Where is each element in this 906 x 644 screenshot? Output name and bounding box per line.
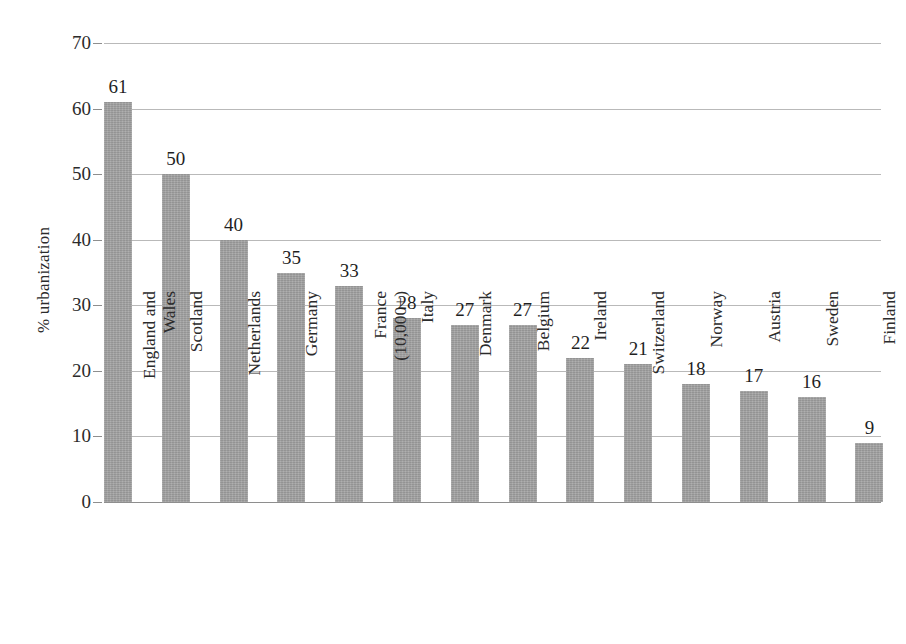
y-tick-label-60: 60 — [47, 99, 91, 118]
y-tick-label-50: 50 — [47, 164, 91, 183]
bar-value-label: 61 — [88, 77, 148, 96]
y-tick-mark-50 — [93, 174, 102, 175]
x-label-line: (10,000+) — [390, 291, 410, 511]
x-label-line: Scotland — [186, 291, 206, 511]
y-tick-label-0: 0 — [47, 492, 91, 511]
x-label-line: Switzerland — [648, 291, 668, 511]
x-label-line: Belgium — [533, 291, 553, 511]
y-tick-mark-60 — [93, 109, 102, 110]
x-axis-category-label[interactable]: Ireland — [590, 291, 618, 511]
gridline-50 — [104, 174, 881, 175]
bar-chart: % urbanization 01020304050607061England … — [0, 0, 906, 644]
bar-value-label: 40 — [204, 215, 264, 234]
x-axis-category-label[interactable]: Scotland — [186, 291, 214, 511]
x-label-line: Denmark — [475, 291, 495, 511]
x-axis-category-label[interactable]: Austria — [764, 291, 792, 511]
x-axis-category-label[interactable]: Norway — [706, 291, 734, 511]
y-tick-mark-0 — [93, 502, 102, 503]
bar[interactable] — [335, 286, 363, 502]
gridline-70 — [104, 43, 881, 44]
bar[interactable] — [104, 102, 132, 502]
y-tick-mark-20 — [93, 371, 102, 372]
x-axis-category-label[interactable]: Switzerland — [648, 291, 676, 511]
y-tick-label-20: 20 — [47, 361, 91, 380]
x-axis-category-label[interactable]: Sweden — [822, 291, 850, 511]
x-label-line: England and — [139, 291, 159, 511]
y-tick-label-70: 70 — [47, 33, 91, 52]
y-tick-mark-40 — [93, 240, 102, 241]
x-label-line: Wales — [159, 291, 179, 511]
x-axis-category-label[interactable]: England andWales — [139, 291, 181, 511]
y-tick-mark-10 — [93, 436, 102, 437]
x-label-line: Germany — [301, 291, 321, 511]
x-label-line: Austria — [764, 291, 784, 511]
x-axis-category-label[interactable]: Italy — [417, 291, 445, 511]
x-axis-category-label[interactable]: Germany — [301, 291, 329, 511]
y-tick-mark-30 — [93, 305, 102, 306]
x-label-line: Netherlands — [244, 291, 264, 511]
x-label-line: Ireland — [590, 291, 610, 511]
x-label-line: France — [370, 291, 390, 511]
x-axis-category-label[interactable]: Belgium — [533, 291, 561, 511]
x-label-line: Finland — [879, 291, 899, 511]
y-tick-label-30: 30 — [47, 295, 91, 314]
x-label-line: Norway — [706, 291, 726, 511]
bar-value-label: 33 — [319, 261, 379, 280]
bar-value-label: 50 — [146, 149, 206, 168]
x-label-line: Italy — [417, 291, 437, 511]
x-axis-category-label[interactable]: France(10,000+) — [370, 291, 412, 511]
x-axis-category-label[interactable]: Finland — [879, 291, 906, 511]
bar-value-label: 35 — [261, 248, 321, 267]
y-tick-mark-70 — [93, 43, 102, 44]
x-axis-category-label[interactable]: Netherlands — [244, 291, 272, 511]
gridline-60 — [104, 109, 881, 110]
x-label-line: Sweden — [822, 291, 842, 511]
y-tick-label-40: 40 — [47, 230, 91, 249]
x-axis-category-label[interactable]: Denmark — [475, 291, 503, 511]
y-tick-label-10: 10 — [47, 426, 91, 445]
